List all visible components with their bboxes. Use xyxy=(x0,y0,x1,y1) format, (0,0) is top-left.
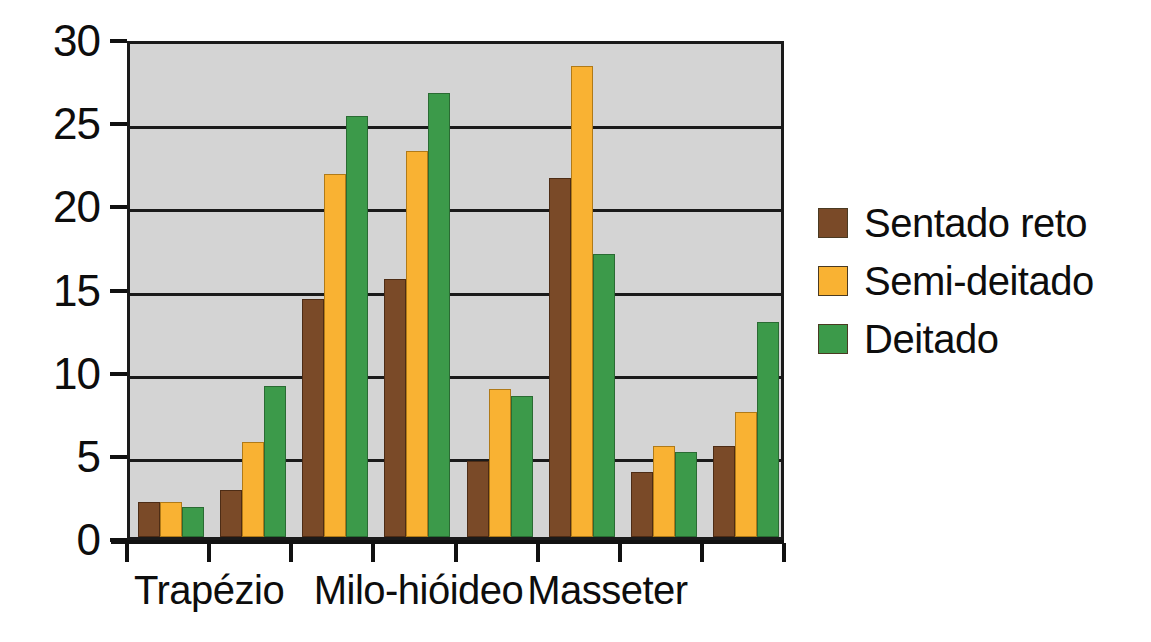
x-axis-category-label: Trapézio xyxy=(134,568,284,613)
legend-item[interactable]: Semi-deitado xyxy=(818,254,1151,308)
bar xyxy=(675,452,697,537)
bar xyxy=(384,279,406,537)
x-axis-tick xyxy=(207,543,211,562)
bar xyxy=(593,254,615,537)
x-axis-line xyxy=(111,540,784,544)
bar xyxy=(302,299,324,537)
y-axis-tick-label: 5 xyxy=(0,435,100,479)
y-axis-tick-label: 20 xyxy=(0,185,100,229)
x-axis-tick xyxy=(289,543,293,562)
bar xyxy=(489,389,511,537)
bar xyxy=(757,322,779,537)
y-axis-tick-mark xyxy=(110,372,127,376)
bar xyxy=(324,174,346,537)
bar xyxy=(182,507,204,537)
bar xyxy=(571,66,593,537)
bar xyxy=(242,442,264,537)
x-axis-tick xyxy=(371,543,375,562)
x-axis-tick xyxy=(782,543,786,562)
bar xyxy=(511,396,533,537)
y-axis-tick-mark xyxy=(110,205,127,209)
y-axis-tick-label: 15 xyxy=(0,269,100,313)
legend-item-label: Sentado reto xyxy=(864,203,1087,243)
bar xyxy=(138,502,160,537)
legend-color-swatch xyxy=(818,266,848,296)
bar-chart: 051015202530 TrapézioMilo-hióideoMassete… xyxy=(0,0,1151,642)
bar xyxy=(428,93,450,537)
legend-color-swatch xyxy=(818,208,848,238)
plot-area xyxy=(127,41,784,540)
y-axis-tick-label: 25 xyxy=(0,102,100,146)
legend-item[interactable]: Deitado xyxy=(818,312,1151,366)
bar xyxy=(264,386,286,537)
x-axis-category-label: Milo-hióideo xyxy=(314,568,524,613)
x-axis-category-label: Masseter xyxy=(527,568,688,613)
bar xyxy=(406,151,428,537)
bar xyxy=(735,412,757,537)
y-axis-tick-mark xyxy=(110,39,127,43)
gridline xyxy=(130,376,781,379)
y-axis-tick-label: 0 xyxy=(0,518,100,562)
legend-color-swatch xyxy=(818,324,848,354)
legend-item[interactable]: Sentado reto xyxy=(818,196,1151,250)
y-axis-tick-mark xyxy=(110,455,127,459)
x-axis-tick xyxy=(536,543,540,562)
x-axis-tick xyxy=(125,543,129,562)
bar xyxy=(653,446,675,537)
bar xyxy=(713,446,735,537)
x-axis-tick xyxy=(700,543,704,562)
gridline xyxy=(130,209,781,212)
y-axis-tick-label: 10 xyxy=(0,352,100,396)
legend-item-label: Deitado xyxy=(864,319,998,359)
bar xyxy=(631,472,653,537)
bar xyxy=(160,502,182,537)
bar xyxy=(467,461,489,538)
bar xyxy=(346,116,368,537)
y-axis-tick-label: 30 xyxy=(0,19,100,63)
x-axis-tick xyxy=(454,543,458,562)
y-axis-tick-mark xyxy=(110,122,127,126)
chart-legend: Sentado retoSemi-deitadoDeitado xyxy=(818,196,1151,370)
legend-item-label: Semi-deitado xyxy=(864,261,1094,301)
gridline xyxy=(130,126,781,129)
x-axis-tick xyxy=(618,543,622,562)
gridline xyxy=(130,293,781,296)
bar xyxy=(220,490,242,537)
bar xyxy=(549,178,571,537)
y-axis-tick-mark xyxy=(110,289,127,293)
